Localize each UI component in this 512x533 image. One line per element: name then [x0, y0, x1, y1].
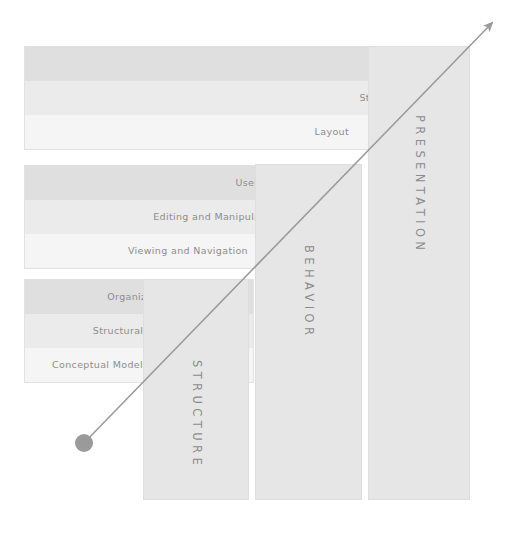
layer-bar-label: Layout [315, 127, 349, 137]
pillar-label-wrapper: PRESENTATION [369, 115, 469, 254]
pillar-presentation: PRESENTATION [368, 46, 470, 500]
diagram-canvas: TextStyleLayoutUser AssistanceEditing an… [0, 0, 512, 533]
arrow-origin-dot [75, 434, 93, 452]
pillar-label: PRESENTATION [413, 115, 425, 254]
pillar-label: STRUCTURE [190, 360, 202, 469]
pillar-structure: STRUCTURE [143, 279, 249, 500]
pillar-label: BEHAVIOR [303, 245, 315, 339]
layer-bar-label: Viewing and Navigation [128, 246, 248, 256]
pillar-label-wrapper: BEHAVIOR [256, 245, 361, 339]
pillar-behavior: BEHAVIOR [255, 164, 362, 500]
layer-bar-label: Conceptual Model [52, 360, 143, 370]
pillar-label-wrapper: STRUCTURE [144, 360, 248, 469]
